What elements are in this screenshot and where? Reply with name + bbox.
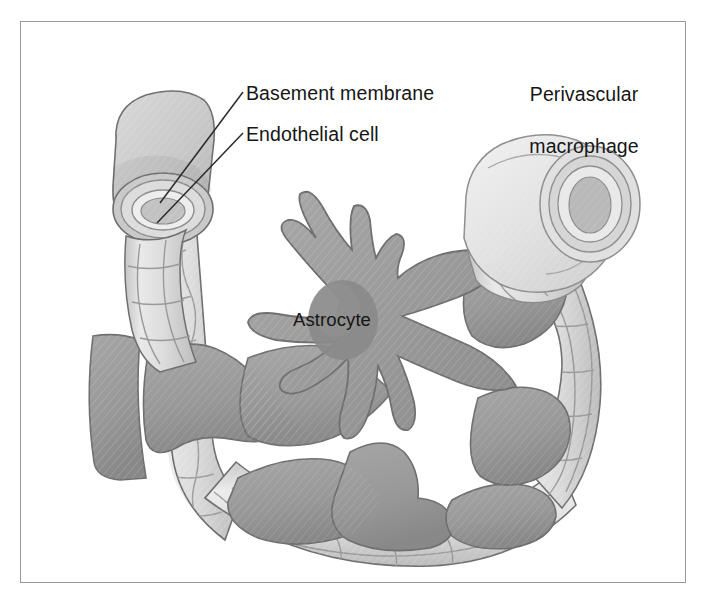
- label-perivascular-macrophage-line1: Perivascular: [530, 83, 639, 105]
- label-basement-membrane: Basement membrane: [246, 82, 434, 105]
- label-astrocyte: Astrocyte: [293, 309, 371, 331]
- figure-root: Basement membrane Endothelial cell Periv…: [0, 0, 708, 606]
- astrocyte-end-foot-left-back: [89, 335, 146, 480]
- label-perivascular-macrophage: Perivascular macrophage: [478, 55, 668, 185]
- label-endothelial-cell: Endothelial cell: [246, 123, 379, 146]
- label-perivascular-macrophage-line2: macrophage: [529, 135, 638, 157]
